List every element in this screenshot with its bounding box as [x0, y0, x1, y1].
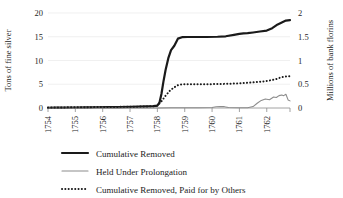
y2-axis-tick-label: 0.5 — [298, 79, 309, 89]
y-axis-tick-label: 5 — [39, 79, 43, 89]
series-line-2 — [48, 76, 290, 107]
y2-axis-tick-label: 2 — [298, 8, 302, 18]
legend-label-2: Cumulative Removed, Paid for by Others — [96, 185, 246, 195]
series-line-0 — [48, 20, 290, 108]
x-axis-tick-label: 1755 — [70, 116, 80, 133]
y-axis-title: Tons of fine silver — [3, 29, 13, 91]
y2-axis-title: Millions of bank florins — [325, 20, 335, 101]
x-axis-tick-label: 1754 — [43, 115, 53, 133]
x-axis-tick-label: 1758 — [152, 116, 162, 133]
x-axis-tick-label: 1759 — [180, 116, 190, 133]
series-line-1 — [48, 94, 290, 108]
y-axis-tick-label: 0 — [39, 103, 43, 113]
x-axis-tick-label: 1762 — [262, 116, 272, 133]
legend-label-0: Cumulative Removed — [96, 149, 175, 159]
chart-container: 0510152000.511.5217541755175617571758175… — [0, 0, 343, 198]
x-axis-tick-label: 1760 — [207, 116, 217, 133]
y-axis-tick-label: 15 — [35, 32, 44, 42]
x-axis-tick-label: 1761 — [234, 116, 244, 133]
y2-axis-tick-label: 1 — [298, 56, 302, 66]
y-axis-tick-label: 20 — [35, 8, 44, 18]
line-chart: 0510152000.511.5217541755175617571758175… — [0, 0, 343, 198]
y2-axis-tick-label: 1.5 — [298, 32, 309, 42]
y-axis-tick-label: 10 — [35, 56, 44, 66]
y2-axis-tick-label: 0 — [298, 103, 302, 113]
x-axis-tick-label: 1757 — [125, 116, 135, 133]
legend-label-1: Held Under Prolongation — [96, 167, 187, 177]
x-axis-tick-label: 1756 — [98, 116, 108, 133]
